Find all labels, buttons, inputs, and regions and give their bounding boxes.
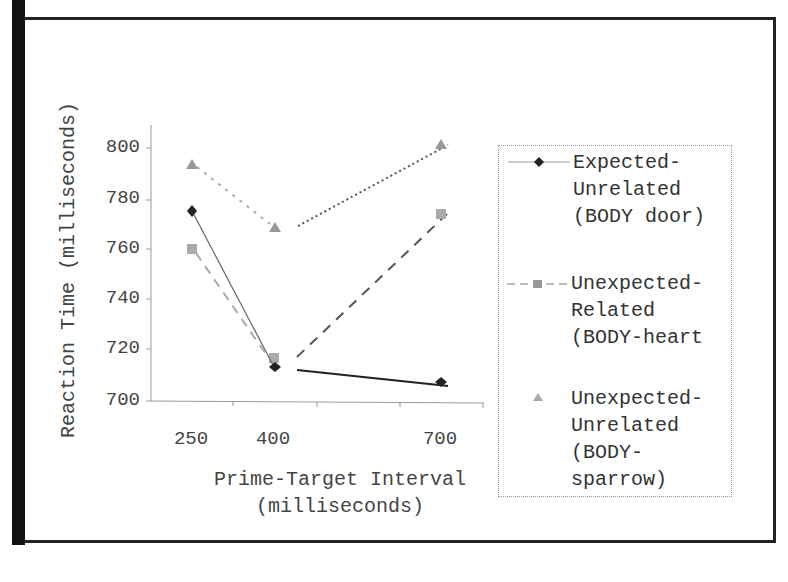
diamond-marker xyxy=(187,205,197,217)
x-tick-label: 700 xyxy=(423,428,457,450)
diamond-marker xyxy=(269,362,281,372)
series-unexpected-unrelated xyxy=(186,139,448,232)
x-axis-title-line1: Prime-Target Interval xyxy=(195,466,485,493)
series-unexpected-related xyxy=(187,209,447,363)
triangle-marker xyxy=(269,222,281,232)
triangle-marker xyxy=(435,139,447,149)
legend: Expected- Unrelated (BODY door) Unexpect… xyxy=(498,145,732,497)
square-marker xyxy=(436,209,446,219)
legend-label: Expected- Unrelated (BODY door) xyxy=(573,149,705,230)
triangle-marker xyxy=(186,159,198,169)
y-axis-ticks xyxy=(146,148,151,349)
y-tick-label: 760 xyxy=(80,237,140,259)
y-tick-label: 720 xyxy=(80,337,140,359)
y-axis-title: Reaction Time (milliseconds) xyxy=(57,102,80,438)
y-tick-label: 700 xyxy=(80,389,140,411)
x-tick-label: 400 xyxy=(256,428,290,450)
y-tick-label: 800 xyxy=(80,136,140,158)
y-tick-label: 780 xyxy=(80,187,140,209)
x-axis-title-line2: (milliseconds) xyxy=(195,493,485,520)
square-marker xyxy=(187,244,197,254)
y-tick-label: 740 xyxy=(80,287,140,309)
x-axis xyxy=(146,401,484,403)
legend-label: Unexpected- Related (BODY-heart xyxy=(571,270,703,351)
legend-label: Unexpected- Unrelated (BODY- sparrow) xyxy=(571,385,703,493)
x-axis-title: Prime-Target Interval (milliseconds) xyxy=(195,466,485,520)
x-tick-label: 250 xyxy=(174,428,208,450)
